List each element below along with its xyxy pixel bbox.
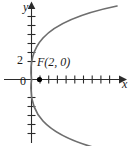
parabola-figure: y x 2 0 F(2, 0) [0,0,135,146]
focus-point-label: F(2, 0) [37,56,70,68]
y-tick-label-2: 2 [17,54,23,66]
y-axis-arrow-icon [28,2,36,10]
y-axis-label: y [23,1,28,13]
graph-canvas [0,0,135,146]
focus-point-marker [37,77,42,82]
origin-label: 0 [20,75,26,87]
x-axis-label: x [122,78,127,90]
parabola-lower-branch [31,80,117,147]
